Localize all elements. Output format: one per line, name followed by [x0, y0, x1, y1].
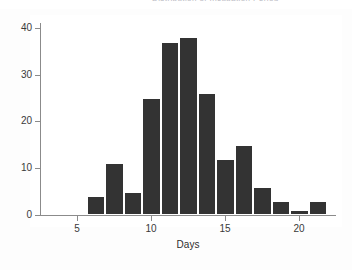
histogram-bar: [253, 187, 272, 215]
histogram-bar: [124, 192, 143, 215]
x-tick-mark: [299, 216, 300, 221]
y-tick-mark: [35, 75, 40, 76]
y-tick-mark: [35, 28, 40, 29]
y-tick-mark: [35, 168, 40, 169]
x-axis-line: [40, 215, 336, 216]
cutoff-header-strip: Distribution of Incubation Period: [0, 0, 352, 9]
x-tick-mark: [151, 216, 152, 221]
y-tick-label: 10: [6, 163, 32, 173]
histogram-bar: [161, 42, 180, 215]
histogram-bar: [179, 37, 198, 215]
x-tick-mark: [77, 216, 78, 221]
histogram-figure: 010203040 5101520 Days: [0, 9, 352, 270]
histogram-bar: [198, 93, 217, 215]
x-axis-title: Days: [40, 239, 336, 250]
x-tick-label: 15: [213, 223, 237, 234]
y-tick-label: 40: [6, 23, 32, 33]
y-tick-mark: [35, 121, 40, 122]
histogram-bar: [272, 201, 291, 215]
y-tick-label: 30: [6, 70, 32, 80]
histogram-bar: [142, 98, 161, 215]
y-tick-label: 0: [6, 210, 32, 220]
cutoff-header-text: Distribution of Incubation Period: [152, 0, 279, 3]
histogram-bar: [290, 210, 309, 215]
x-tick-label: 5: [65, 223, 89, 234]
y-axis-line: [40, 23, 41, 216]
histogram-bar: [235, 145, 254, 215]
histogram-bar: [87, 196, 106, 215]
y-tick-mark: [35, 215, 40, 216]
x-tick-label: 10: [139, 223, 163, 234]
histogram-bar: [309, 201, 328, 215]
x-tick-mark: [225, 216, 226, 221]
histogram-bar: [105, 163, 124, 215]
x-tick-label: 20: [287, 223, 311, 234]
y-tick-label: 20: [6, 116, 32, 126]
histogram-bar: [216, 159, 235, 215]
